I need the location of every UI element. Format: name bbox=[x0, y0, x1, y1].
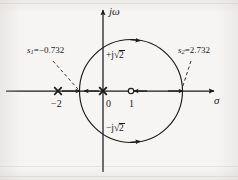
label-root-right: s2=2.732 bbox=[178, 46, 210, 56]
label-minus-j-sqrt-2-radicand: 2 bbox=[119, 123, 125, 134]
label-minus-j-sqrt-2-prefix: −j bbox=[106, 123, 114, 133]
imaginary-axis-label: jω bbox=[109, 6, 120, 17]
leader-line-root-right bbox=[182, 61, 191, 89]
label-root-left: s1=−0.732 bbox=[27, 46, 64, 56]
label-plus-j-sqrt-2: +j√2 bbox=[106, 50, 125, 61]
root-locus-figure: jω σ −2 0 1 +j√2 −j√2 s1=−0.732 s2=2.732 bbox=[0, 0, 238, 180]
leader-line-root-left bbox=[53, 61, 78, 89]
label-plus-j-sqrt-2-prefix: +j bbox=[106, 50, 114, 60]
real-axis-label: σ bbox=[214, 95, 219, 106]
root-locus-canvas bbox=[0, 0, 238, 180]
label-minus-j-sqrt-2: −j√2 bbox=[106, 123, 125, 134]
tick-label-1: 1 bbox=[129, 99, 134, 109]
label-root-left-value: =−0.732 bbox=[34, 45, 64, 55]
tick-label-minus-2: −2 bbox=[51, 99, 62, 109]
tick-label-0: 0 bbox=[106, 99, 111, 109]
label-root-right-value: =2.732 bbox=[185, 45, 210, 55]
zero-marker-1 bbox=[128, 88, 133, 93]
label-plus-j-sqrt-2-radicand: 2 bbox=[119, 50, 125, 61]
